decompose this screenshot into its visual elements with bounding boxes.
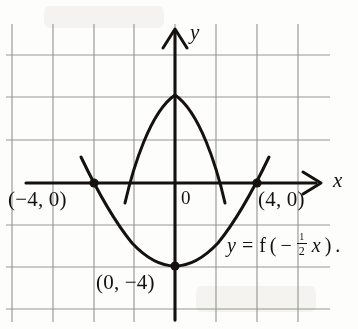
equation-fraction: 1 2 — [297, 232, 307, 257]
equation-open-paren: ( — [270, 234, 277, 257]
point-vertex — [170, 261, 179, 270]
point-left-root — [89, 178, 98, 187]
grid-lines — [6, 24, 330, 322]
equation-label: y = f ( − 1 2 x ) . — [227, 233, 340, 258]
y-axis-label: y — [190, 22, 199, 43]
graph-svg — [0, 0, 358, 329]
fraction-denominator: 2 — [298, 245, 306, 257]
equation-variable: x — [312, 234, 321, 257]
origin-label: 0 — [181, 188, 191, 207]
label-right-root: (4, 0) — [258, 189, 305, 210]
equation-period: . — [335, 234, 340, 257]
equation-close-paren: ) — [325, 234, 332, 257]
fraction-numerator: 1 — [298, 232, 305, 242]
equation-function-name: f — [259, 234, 266, 257]
label-left-root: (−4, 0) — [8, 189, 67, 210]
equation-minus-sign: − — [281, 234, 292, 257]
axes — [26, 29, 321, 320]
label-vertex: (0, −4) — [96, 272, 155, 293]
equation-lhs: y — [227, 234, 236, 257]
figure-canvas: x y 0 (−4, 0) (4, 0) (0, −4) y = f ( − 1… — [0, 0, 358, 329]
x-axis-label: x — [333, 170, 342, 191]
equation-equals: = — [240, 234, 255, 257]
